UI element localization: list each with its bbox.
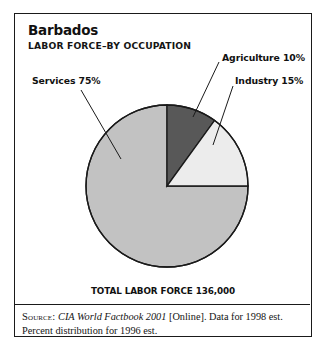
pie-chart-plot-area: Services 75% Agriculture 10% Industry 15… — [15, 14, 311, 300]
pie-label-services: Services 75% — [32, 75, 100, 86]
leader-line-agriculture — [193, 62, 219, 117]
figure-frame: Barbados LABOR FORCE–BY OCCUPATION Servi… — [14, 13, 312, 337]
source-divider — [15, 304, 310, 305]
source-note: Source: CIA World Factbook 2001 [Online]… — [22, 310, 305, 338]
source-publication: CIA World Factbook 2001 — [58, 311, 166, 322]
pie-label-industry: Industry 15% — [235, 75, 303, 86]
total-labor-force-caption: TOTAL LABOR FORCE 136,000 — [15, 286, 311, 296]
source-label: Source: — [22, 311, 58, 322]
pie-label-agriculture: Agriculture 10% — [222, 52, 305, 63]
